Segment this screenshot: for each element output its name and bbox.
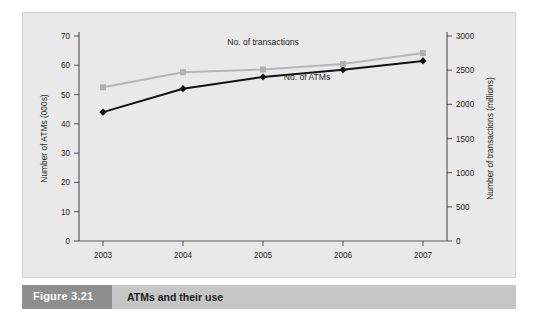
- y-axis-right-tick-label: 2000: [456, 100, 475, 109]
- data-point-transactions: [420, 50, 426, 56]
- y-axis-right-tick-label: 1500: [456, 135, 475, 144]
- data-point-transactions: [180, 69, 186, 75]
- x-axis-tick-label: 2005: [254, 251, 273, 260]
- y-axis-right-tick-label: 3000: [456, 32, 475, 41]
- y-axis-right-tick-label: 1000: [456, 169, 475, 178]
- chart-panel: 0102030405060700500100015002000250030002…: [22, 12, 516, 278]
- y-axis-right-tick-label: 2500: [456, 66, 475, 75]
- y-axis-left-tick-label: 40: [61, 120, 71, 129]
- y-axis-left-title: Number of ATMs (000s): [39, 94, 49, 182]
- figure-caption-text: ATMs and their use: [127, 291, 223, 303]
- data-point-transactions: [260, 66, 266, 72]
- data-point-atms: [99, 109, 106, 116]
- y-axis-left-tick-label: 10: [61, 208, 71, 217]
- data-point-atms: [419, 57, 426, 64]
- figure-caption-bar: Figure 3.21 ATMs and their use: [22, 285, 516, 309]
- y-axis-left-tick-label: 30: [61, 149, 71, 158]
- x-axis-tick-label: 2006: [334, 251, 353, 260]
- figure-container: 0102030405060700500100015002000250030002…: [0, 0, 540, 331]
- x-axis-tick-label: 2004: [174, 251, 193, 260]
- y-axis-left-tick-label: 70: [61, 32, 71, 41]
- y-axis-left-tick-label: 50: [61, 91, 71, 100]
- y-axis-left-tick-label: 0: [65, 237, 70, 246]
- x-axis-tick-label: 2007: [414, 251, 433, 260]
- line-chart: 0102030405060700500100015002000250030002…: [23, 13, 517, 279]
- data-point-atms: [339, 66, 346, 73]
- y-axis-left-tick-label: 60: [61, 61, 71, 70]
- series-annotation-transactions: No. of transactions: [227, 37, 299, 47]
- data-point-atms: [259, 73, 266, 80]
- y-axis-left-tick-label: 20: [61, 178, 71, 187]
- data-point-atms: [179, 85, 186, 92]
- data-point-transactions: [340, 61, 346, 67]
- x-axis-tick-label: 2003: [94, 251, 113, 260]
- series-annotation-atms: No. of ATMs: [284, 72, 331, 82]
- data-point-transactions: [100, 84, 106, 90]
- y-axis-right-tick-label: 0: [456, 237, 461, 246]
- y-axis-right-title: Number of transactions (millions): [485, 77, 495, 200]
- figure-number-label: Figure 3.21: [33, 290, 93, 302]
- figure-number-box: Figure 3.21: [22, 285, 112, 309]
- y-axis-right-tick-label: 500: [456, 203, 470, 212]
